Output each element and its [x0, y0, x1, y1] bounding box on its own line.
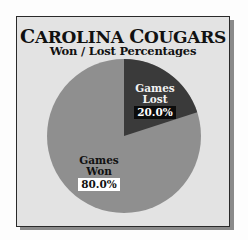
slice-value-lost: 20.0% [134, 106, 176, 119]
chart-canvas: CAROLINA COUGARS Won / Lost Percentages … [0, 0, 248, 240]
slice-value-won: 80.0% [78, 178, 120, 191]
slice-label-lost-line2: Lost [131, 94, 179, 105]
slice-label-won-line2: Won [75, 166, 123, 177]
pie-chart [17, 17, 229, 226]
slice-label-won: Games Won 80.0% [75, 155, 123, 191]
slice-label-lost: Games Lost 20.0% [131, 83, 179, 119]
chart-card: CAROLINA COUGARS Won / Lost Percentages … [16, 16, 230, 227]
